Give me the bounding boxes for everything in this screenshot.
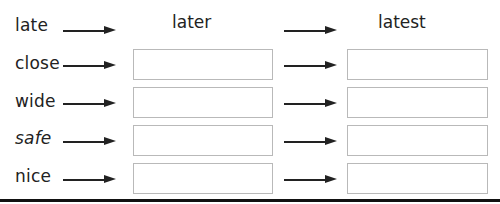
base-word-close: close <box>15 53 60 73</box>
arrow-icon <box>284 26 336 36</box>
answer-box-close-est[interactable] <box>347 49 488 80</box>
arrow-icon <box>63 137 115 147</box>
base-word-nice: nice <box>15 166 51 186</box>
arrow-icon <box>63 175 115 185</box>
header-latest: latest <box>378 12 426 32</box>
answer-box-wide-est[interactable] <box>347 87 488 118</box>
header-later: later <box>172 12 211 32</box>
answer-box-nice-er[interactable] <box>133 163 273 194</box>
answer-box-close-er[interactable] <box>133 49 273 80</box>
arrow-icon <box>284 61 336 71</box>
arrow-icon <box>63 26 115 36</box>
answer-box-wide-er[interactable] <box>133 87 273 118</box>
base-word-wide: wide <box>15 91 56 111</box>
answer-box-nice-est[interactable] <box>347 163 488 194</box>
base-word-safe: safe <box>15 128 52 148</box>
answer-box-safe-est[interactable] <box>347 125 488 156</box>
base-word-late: late <box>15 15 48 35</box>
arrow-icon <box>63 61 115 71</box>
arrow-icon <box>63 99 115 109</box>
arrow-icon <box>284 99 336 109</box>
arrow-icon <box>284 137 336 147</box>
bottom-divider <box>0 199 500 202</box>
answer-box-safe-er[interactable] <box>133 125 273 156</box>
arrow-icon <box>284 175 336 185</box>
